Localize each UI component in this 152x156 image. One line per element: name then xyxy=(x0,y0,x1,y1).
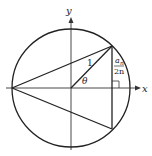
half-side-denominator: 2n xyxy=(114,67,124,76)
y-axis-arrow-icon xyxy=(69,17,74,23)
y-axis-label: y xyxy=(65,5,72,16)
chord-lower xyxy=(12,88,112,129)
unit-circle-diagram: y x 1 θ a n 2n xyxy=(0,0,152,156)
radius-label: 1 xyxy=(87,58,93,68)
chord-upper xyxy=(12,46,112,88)
angle-label: θ xyxy=(82,76,88,86)
x-axis-arrow-icon xyxy=(135,86,141,91)
x-axis-label: x xyxy=(142,83,148,94)
diagram-canvas: y x 1 θ a n 2n xyxy=(0,0,152,156)
right-angle-marker xyxy=(112,81,119,88)
half-side-subscript: n xyxy=(120,59,124,66)
